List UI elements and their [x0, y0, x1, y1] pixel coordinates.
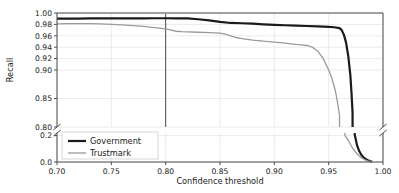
svg-text:0.2: 0.2	[40, 131, 52, 140]
chart-figure: 1.000.980.960.940.920.900.850.800.20.00.…	[0, 0, 399, 193]
svg-text:0.90: 0.90	[35, 66, 52, 75]
svg-text:0.94: 0.94	[35, 43, 52, 52]
legend-label-trustmark: Trustmark	[89, 148, 131, 158]
chart-canvas: 1.000.980.960.940.920.900.850.800.20.00.…	[0, 0, 399, 193]
y-axis-title: Recall	[5, 58, 15, 82]
svg-text:0.85: 0.85	[35, 94, 52, 103]
svg-text:1.00: 1.00	[375, 167, 392, 176]
svg-text:0.95: 0.95	[320, 167, 337, 176]
svg-text:0.85: 0.85	[212, 167, 229, 176]
svg-text:0.90: 0.90	[266, 167, 283, 176]
svg-text:0.0: 0.0	[40, 158, 52, 167]
svg-text:0.98: 0.98	[35, 20, 52, 29]
svg-text:0.92: 0.92	[35, 54, 52, 63]
chart-legend: GovernmentTrustmark	[62, 132, 158, 159]
svg-text:0.80: 0.80	[157, 167, 174, 176]
legend-label-government: Government	[90, 136, 142, 146]
svg-text:0.70: 0.70	[49, 167, 66, 176]
x-axis-title: Confidence threshold	[176, 176, 263, 186]
svg-text:1.00: 1.00	[35, 9, 52, 18]
svg-text:0.96: 0.96	[35, 32, 52, 41]
svg-text:0.75: 0.75	[103, 167, 120, 176]
